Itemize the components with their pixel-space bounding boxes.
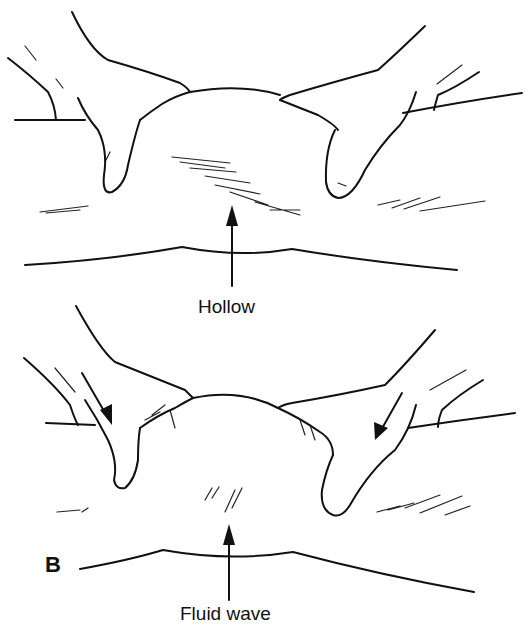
line-drawing [0, 0, 526, 629]
fluid-wave-label: Fluid wave [180, 603, 271, 625]
hollow-label: Hollow [198, 296, 255, 318]
top-panel-drawing [8, 12, 522, 286]
panel-letter-b: B [45, 552, 61, 578]
bottom-panel-drawing [24, 306, 515, 600]
illustration: Hollow B Fluid wave [0, 0, 526, 629]
